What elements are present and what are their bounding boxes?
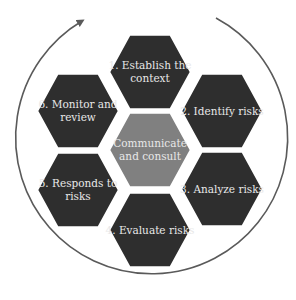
step-label-4-line: 4. Evaluate risks xyxy=(106,224,195,236)
step-label-1-line: 1. Establish the xyxy=(108,59,191,71)
center-label-line: Communicate xyxy=(113,137,187,149)
step-label-2: 2. Identify risks xyxy=(180,105,263,117)
step-label-5-line: 5. Responds to xyxy=(39,177,118,189)
step-label-3: 3. Analyze risks xyxy=(180,183,264,195)
step-label-1-line: context xyxy=(130,72,170,84)
step-label-2-line: 2. Identify risks xyxy=(180,105,263,117)
step-label-4: 4. Evaluate risks xyxy=(106,224,195,236)
center-label: Communicateand consult xyxy=(113,137,187,162)
step-label-5-line: risks xyxy=(65,190,91,202)
risk-management-diagram: 1. Establish thecontext2. Identify risks… xyxy=(0,0,296,300)
step-label-6-line: review xyxy=(60,111,96,123)
step-label-3-line: 3. Analyze risks xyxy=(180,183,264,195)
center-label-line: and consult xyxy=(119,150,182,162)
step-label-6-line: 6. Monitor and xyxy=(38,98,117,110)
